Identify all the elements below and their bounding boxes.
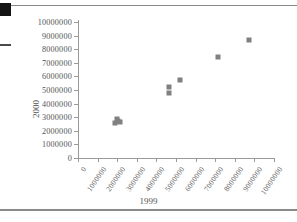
y-axis-tick [74, 22, 78, 23]
y-axis-tick [74, 36, 78, 37]
y-axis-tick-label: 2000000 [42, 126, 72, 135]
x-axis-tick [176, 158, 177, 162]
y-axis-tick [74, 131, 78, 132]
plot-area: 0100000020000003000000400000050000006000… [78, 22, 274, 158]
y-axis-tick [74, 104, 78, 105]
corner-marker [0, 3, 11, 16]
x-axis-tick-label: 0 [79, 165, 89, 173]
y-axis-tick-label: 6000000 [42, 72, 72, 81]
y-axis-tick-label: 1000000 [42, 140, 72, 149]
data-point [167, 85, 172, 90]
x-axis-tick [196, 158, 197, 162]
y-axis-tick [74, 117, 78, 118]
figure-canvas: 0100000020000003000000400000050000006000… [0, 0, 297, 222]
x-axis-title: 1999 [0, 196, 297, 206]
data-point [246, 37, 251, 42]
x-axis-tick [156, 158, 157, 162]
y-axis-title: 2000 [31, 100, 41, 118]
x-axis-tick [117, 158, 118, 162]
y-axis-tick-label: 9000000 [42, 31, 72, 40]
y-axis-tick-label: 3000000 [42, 113, 72, 122]
x-axis-tick [215, 158, 216, 162]
y-axis-tick-label: 0 [68, 154, 72, 163]
y-axis-tick-label: 10000000 [38, 18, 72, 27]
x-axis-tick [78, 158, 79, 162]
top-divider [0, 5, 297, 6]
data-point [216, 55, 221, 60]
y-axis-tick [74, 63, 78, 64]
left-margin-dash [0, 44, 11, 46]
x-axis-tick [137, 158, 138, 162]
x-axis-tick [274, 158, 275, 162]
data-point [167, 90, 172, 95]
y-axis-tick [74, 49, 78, 50]
bottom-divider [0, 209, 297, 211]
x-axis-tick-label: 5000000 [163, 165, 186, 193]
x-axis-tick [235, 158, 236, 162]
y-axis-tick-label: 7000000 [42, 58, 72, 67]
x-axis-tick [254, 158, 255, 162]
y-axis-tick [74, 144, 78, 145]
y-axis-tick-label: 5000000 [42, 86, 72, 95]
data-point [118, 119, 123, 124]
y-axis-tick-label: 4000000 [42, 99, 72, 108]
y-axis-tick-label: 8000000 [42, 45, 72, 54]
x-axis-tick [98, 158, 99, 162]
data-point [177, 77, 182, 82]
y-axis-tick [74, 76, 78, 77]
y-axis-tick [74, 90, 78, 91]
